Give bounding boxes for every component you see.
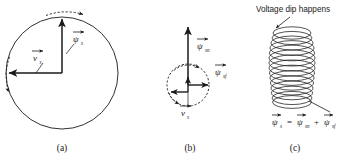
voltage-dip-leader-arrow	[276, 17, 290, 28]
figure-root: ψ s v s (a)	[0, 0, 352, 164]
panel-a-voltage-label-leader	[36, 63, 43, 73]
eq-lhs-subscript: s	[280, 123, 282, 129]
panel-a-voltage-symbol: v	[33, 53, 37, 63]
panel-b-caption: (b)	[184, 143, 195, 154]
panel-a-flux-symbol: ψ	[73, 34, 79, 44]
panel-c-caption: (c)	[290, 143, 301, 154]
panel-b-top-dashed-arc	[174, 65, 199, 71]
eq-term2-symbol: ψ	[324, 117, 330, 127]
eq-plus-sign: +	[314, 117, 319, 127]
panel-a-flux-subscript: s	[81, 40, 83, 46]
panel-b: ψ sn ψ sf v s (b)	[167, 27, 228, 154]
panel-a: ψ s v s (a)	[6, 12, 118, 154]
eq-term1-symbol: ψ	[297, 117, 303, 127]
panel-b-bottom-dashed-arc	[169, 93, 179, 104]
panel-a-flux-label: ψ s	[73, 32, 84, 46]
panel-c-equation: ψ s = ψ sn + ψ sf	[272, 115, 337, 129]
panel-b-forced-flux-subscript: sf	[223, 73, 228, 79]
panel-b-forced-flux-label: ψ sf	[215, 65, 228, 79]
eq-lhs-symbol: ψ	[272, 117, 278, 127]
panel-c-equation-leader	[309, 101, 330, 112]
panel-a-flux-label-leader	[66, 44, 74, 54]
panel-b-voltage-subscript: s	[187, 114, 189, 120]
figure-svg: ψ s v s (a)	[0, 0, 352, 164]
panel-b-voltage-label: v s	[180, 106, 191, 120]
voltage-dip-annotation: Voltage dip happens	[256, 5, 330, 14]
panel-b-natural-flux-symbol: ψ	[197, 41, 203, 51]
panel-c-spiral	[269, 27, 315, 109]
panel-b-forced-flux-symbol: ψ	[215, 67, 221, 77]
eq-equals-sign: =	[287, 117, 292, 127]
panel-b-natural-flux-label: ψ sn	[197, 39, 210, 53]
panel-a-voltage-label: v s	[32, 51, 43, 65]
eq-term1-subscript: sn	[305, 123, 310, 129]
panel-c: Voltage dip happens	[256, 5, 337, 154]
panel-a-caption: (a)	[57, 143, 68, 154]
panel-a-top-dashed-arc	[46, 12, 83, 16]
panel-a-voltage-subscript: s	[40, 59, 42, 65]
panel-b-voltage-symbol: v	[181, 108, 185, 118]
eq-term2-subscript: sf	[332, 123, 337, 129]
panel-b-natural-flux-subscript: sn	[205, 47, 210, 53]
